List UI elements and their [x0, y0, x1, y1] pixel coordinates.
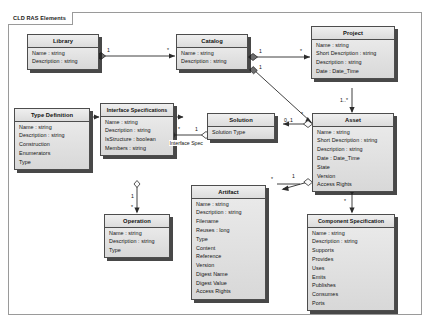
- class-artifact[interactable]: Artifact Name : string Description : str…: [191, 185, 266, 300]
- mult-asset-solution: 0..1: [284, 117, 293, 123]
- class-attribute: Description : string: [312, 59, 394, 68]
- class-attribute: Construction: [15, 141, 89, 150]
- class-attribute: Access Rights: [192, 288, 265, 297]
- class-catalog[interactable]: Catalog Name : string Description : stri…: [176, 34, 248, 70]
- class-title: Interface Specifications: [101, 104, 173, 117]
- class-type-definition[interactable]: Type Definition Name : string Descriptio…: [14, 108, 90, 170]
- class-title: Asset: [313, 114, 393, 127]
- class-title: Project: [312, 27, 394, 40]
- class-attribute: Type: [15, 158, 89, 167]
- class-attribute: Description : string: [101, 127, 173, 136]
- mult-operation: *: [131, 204, 133, 210]
- class-attributes: Name : string Description : string: [28, 48, 98, 69]
- class-title: Type Definition: [15, 109, 89, 122]
- class-attribute: Name : string: [15, 123, 89, 132]
- class-attribute: Type: [192, 235, 265, 244]
- class-attribute: Name : string: [308, 229, 394, 238]
- class-attributes: Name : string Description : string Filen…: [192, 199, 265, 299]
- class-attributes: Name : string Short Description : string…: [312, 40, 394, 78]
- class-attribute: Enumerators: [15, 149, 89, 158]
- edge-label-interface-spec: Interface Spec: [169, 140, 203, 146]
- class-attribute: Version: [313, 172, 393, 181]
- class-title: Library: [28, 35, 98, 48]
- class-attributes: Name : string Description : string Type: [105, 228, 169, 257]
- mult-library-catalog-dst: *: [167, 47, 169, 53]
- class-title: Artifact: [192, 186, 265, 199]
- mult-solution-interface-src: 1: [195, 126, 198, 132]
- class-attribute: Description : string: [28, 58, 98, 67]
- class-attribute: Date : Date_Time: [313, 154, 393, 163]
- class-attribute: Digest Name: [192, 270, 265, 279]
- class-attributes: Name : string Description : string Suppo…: [308, 228, 394, 310]
- class-attribute: Members : string: [101, 144, 173, 153]
- class-attribute: Publishes: [308, 282, 394, 291]
- class-attribute: Consumes: [308, 290, 394, 299]
- class-attributes: Solution Type: [208, 127, 274, 139]
- mult-catalog-project-src: 1: [259, 48, 262, 54]
- class-attribute: Version: [192, 261, 265, 270]
- class-attribute: State: [313, 163, 393, 172]
- class-attribute: Reference: [192, 253, 265, 262]
- class-attribute: Description : string: [308, 238, 394, 247]
- class-attribute: Solution Type: [208, 128, 274, 137]
- class-attribute: Uses: [308, 264, 394, 273]
- diagram-canvas: CLD RAS Elements: [0, 0, 431, 330]
- mult-library-catalog-src: 1: [107, 47, 110, 53]
- edge-interface-operation: [134, 181, 140, 214]
- class-attribute: Digest Value: [192, 279, 265, 288]
- class-attribute: Name : string: [312, 41, 394, 50]
- class-attribute: Description : string: [192, 209, 265, 218]
- class-attribute: Date : Date_Time: [312, 67, 394, 76]
- mult-project-asset: 1..*: [340, 97, 348, 103]
- class-attribute: Description : string: [313, 146, 393, 155]
- mult-asset-artifact: *: [271, 176, 273, 182]
- mult-catalog-asset-dst: *: [301, 111, 303, 117]
- class-attribute: Provides: [308, 255, 394, 264]
- class-attributes: Name : string Description : string Const…: [15, 122, 89, 169]
- class-attribute: Name : string: [105, 229, 169, 238]
- class-library[interactable]: Library Name : string Description : stri…: [27, 34, 99, 70]
- mult-catalog-project-dst: *: [300, 48, 302, 54]
- class-title: Solution: [208, 114, 274, 127]
- class-title: Operation: [105, 215, 169, 228]
- class-attribute: Short Description : string: [313, 137, 393, 146]
- class-attribute: Supports: [308, 247, 394, 256]
- class-attribute: Description : string: [105, 238, 169, 247]
- class-attribute: Name : string: [101, 118, 173, 127]
- mult-asset-compspec: *: [344, 198, 346, 204]
- class-attributes: Name : string Description : string IsStr…: [101, 117, 173, 155]
- class-attribute: Description : string: [177, 58, 247, 67]
- class-solution[interactable]: Solution Solution Type: [207, 113, 275, 140]
- class-attribute: Access Rights: [313, 181, 393, 190]
- class-project[interactable]: Project Name : string Short Description …: [311, 26, 395, 79]
- edge-library-catalog: [97, 53, 176, 60]
- class-attribute: Name : string: [313, 128, 393, 137]
- class-asset[interactable]: Asset Name : string Short Description : …: [312, 113, 394, 192]
- class-interface-specifications[interactable]: Interface Specifications Name : string D…: [100, 103, 174, 156]
- class-attribute: IsStructure : boolean: [101, 136, 173, 145]
- class-attribute: Ports: [308, 299, 394, 308]
- mult-asset-interface-left: 1: [292, 173, 295, 179]
- class-operation[interactable]: Operation Name : string Description : st…: [104, 214, 170, 258]
- class-attribute: Type: [105, 247, 169, 256]
- class-attribute: Name : string: [177, 49, 247, 58]
- edge-asset-artifact: [282, 179, 313, 191]
- class-attribute: Emits: [308, 273, 394, 282]
- edge-type-definition-stub: [93, 115, 100, 120]
- class-attribute: Description : string: [15, 132, 89, 141]
- edge-solution-interface: [169, 132, 211, 139]
- class-attribute: Name : string: [28, 49, 98, 58]
- class-attribute: Name : string: [192, 200, 265, 209]
- class-title: Component Specification: [308, 215, 394, 228]
- class-attribute: Reuses : long: [192, 226, 265, 235]
- class-title: Catalog: [177, 35, 247, 48]
- edge-interface-right-stub: [177, 115, 184, 120]
- class-attributes: Name : string Short Description : string…: [313, 127, 393, 191]
- class-component-specification[interactable]: Component Specification Name : string De…: [307, 214, 395, 311]
- mult-interface-solution-dst: *: [178, 126, 180, 132]
- mult-interface-operation: 1: [131, 193, 134, 199]
- edge-project-asset: [349, 88, 354, 113]
- class-attribute: Content: [192, 244, 265, 253]
- class-attribute: Short Description : string: [312, 50, 394, 59]
- class-attributes: Name : string Description : string: [177, 48, 247, 69]
